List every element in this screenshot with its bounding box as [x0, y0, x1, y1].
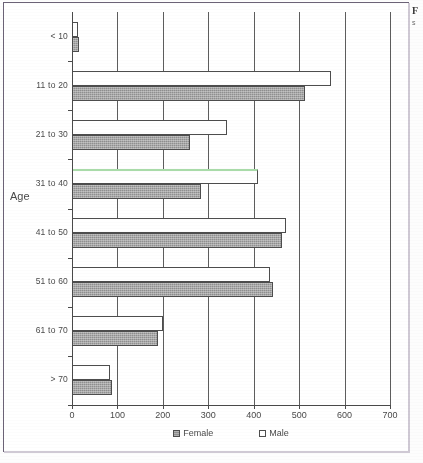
x-tick-mark-100 [117, 405, 118, 409]
bar-female-7[interactable] [72, 380, 112, 395]
y-tick-mark-6 [68, 356, 73, 357]
y-tick-mark-2 [68, 159, 73, 160]
bar-female-5[interactable] [72, 282, 273, 297]
y-category-label-0: < 10 [6, 31, 68, 41]
bar-female-2[interactable] [72, 135, 190, 150]
bar-male-2[interactable] [72, 120, 227, 135]
bar-female-1[interactable] [72, 86, 305, 101]
grouped-bar-chart: Age < 1011 to 2021 to 3031 to 4041 to 50… [0, 0, 423, 463]
bar-male-1[interactable] [72, 71, 331, 86]
legend-item-female: Female [173, 428, 213, 438]
edge-fragment-small-char: s [412, 19, 416, 26]
x-tick-mark-400 [254, 405, 255, 409]
y-tick-mark-1 [68, 110, 73, 111]
y-tick-mark-0 [68, 61, 73, 62]
clipped-edge-fragment: F s [411, 4, 423, 48]
bar-female-3[interactable] [72, 184, 201, 199]
x-tick-label-400: 400 [246, 410, 261, 420]
y-category-label-4: 41 to 50 [6, 227, 68, 237]
bar-male-6[interactable] [72, 316, 163, 331]
legend-swatch-female-icon [173, 430, 180, 437]
scanned-page: F s Age < 1011 to 2021 to 3031 to 4041 t… [0, 0, 423, 463]
y-category-label-7: > 70 [6, 374, 68, 384]
x-tick-label-0: 0 [69, 410, 74, 420]
legend-label-male: Male [269, 428, 289, 438]
y-tick-mark-3 [68, 209, 73, 210]
x-tick-label-300: 300 [201, 410, 216, 420]
legend-swatch-male-icon [259, 430, 266, 437]
y-category-label-1: 11 to 20 [6, 80, 68, 90]
bar-male-3[interactable] [72, 169, 258, 184]
bar-female-0[interactable] [72, 37, 79, 52]
x-tick-mark-500 [299, 405, 300, 409]
y-category-label-3: 31 to 40 [6, 178, 68, 188]
bar-male-5[interactable] [72, 267, 270, 282]
chart-legend: Female Male [72, 428, 390, 438]
y-axis-category-labels: < 1011 to 2021 to 3031 to 4041 to 5051 t… [2, 12, 68, 405]
x-tick-label-600: 600 [337, 410, 352, 420]
y-tick-mark-4 [68, 258, 73, 259]
x-tick-mark-600 [345, 405, 346, 409]
x-tick-label-500: 500 [292, 410, 307, 420]
y-category-label-6: 61 to 70 [6, 325, 68, 335]
edge-fragment-bold-char: F [412, 5, 418, 16]
gridline-700 [390, 12, 391, 405]
x-tick-label-700: 700 [382, 410, 397, 420]
x-tick-mark-300 [208, 405, 209, 409]
legend-label-female: Female [183, 428, 213, 438]
y-tick-mark-7 [68, 405, 73, 406]
gridline-600 [345, 12, 346, 405]
plot-area [72, 12, 390, 405]
x-tick-label-200: 200 [155, 410, 170, 420]
x-tick-mark-200 [163, 405, 164, 409]
bar-female-6[interactable] [72, 331, 158, 346]
x-tick-label-100: 100 [110, 410, 125, 420]
x-axis-line [72, 405, 391, 406]
y-tick-mark-5 [68, 307, 73, 308]
y-category-label-5: 51 to 60 [6, 276, 68, 286]
bar-male-4[interactable] [72, 218, 286, 233]
bar-female-4[interactable] [72, 233, 282, 248]
y-category-label-2: 21 to 30 [6, 129, 68, 139]
legend-item-male: Male [259, 428, 289, 438]
x-tick-mark-700 [390, 405, 391, 409]
bar-male-7[interactable] [72, 365, 110, 380]
